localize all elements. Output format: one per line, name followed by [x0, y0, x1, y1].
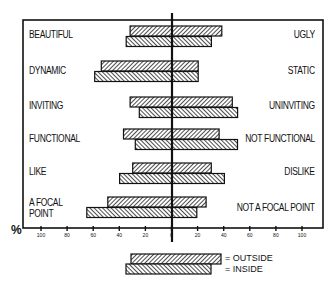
bar-outside-1	[101, 61, 198, 71]
percent-axis-label: %	[11, 223, 22, 237]
label-static: STATIC	[288, 66, 315, 76]
bar-outside-0	[130, 26, 222, 36]
label-point: POINT	[29, 209, 53, 219]
label-not-a-focal-point: NOT A FOCAL POINT	[237, 203, 315, 213]
bar-inside-5	[87, 208, 197, 218]
label-uninviting: UNINVITING	[269, 101, 315, 111]
x-tick-label: 100	[37, 232, 45, 238]
x-tick-label: 60	[247, 232, 253, 238]
bar-outside-5	[108, 197, 206, 207]
x-tick-label: 80	[273, 232, 279, 238]
label-beautiful: BEAUTIFUL	[29, 30, 73, 40]
label-a-focal: A FOCAL	[29, 198, 63, 208]
x-tick-label: 100	[298, 232, 306, 238]
bars-group	[87, 26, 238, 218]
x-tick-label: 40	[221, 232, 227, 238]
bar-inside-3	[135, 140, 237, 150]
legend-inside-label: = INSIDE	[225, 264, 263, 274]
label-inviting: INVITING	[29, 101, 63, 111]
label-dynamic: DYNAMIC	[29, 66, 66, 76]
bar-outside-2	[130, 97, 232, 107]
semantic-differential-chart: BEAUTIFUL DYNAMIC INVITING FUNCTIONAL LI…	[0, 0, 334, 287]
legend-outside-swatch	[131, 254, 221, 264]
bar-inside-0	[126, 37, 211, 47]
legend-inside-swatch	[126, 264, 211, 274]
x-tick-label: 0	[170, 232, 173, 238]
legend-outside-label: = OUTSIDE	[225, 253, 273, 263]
bar-inside-1	[95, 72, 199, 82]
x-tick-label: 20	[143, 232, 149, 238]
label-functional: FUNCTIONAL	[29, 134, 80, 144]
bar-inside-2	[139, 108, 237, 118]
label-like: LIKE	[29, 167, 46, 177]
x-tick-label: 20	[195, 232, 201, 238]
x-tick-label: 80	[64, 232, 70, 238]
x-tick-label: 40	[117, 232, 123, 238]
x-tick-label: 60	[90, 232, 96, 238]
label-ugly: UGLY	[294, 30, 315, 40]
label-not-functional: NOT FUNCTIONAL	[245, 134, 315, 144]
label-dislike: DISLIKE	[285, 167, 315, 177]
